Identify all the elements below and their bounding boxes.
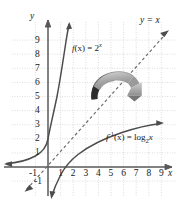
y-axis-arrowhead: [45, 20, 50, 27]
exponential-fn-exponent: x: [99, 41, 102, 48]
exponential-function-label: f(x) = 2x: [72, 42, 102, 53]
x-tick-9: 9: [159, 169, 164, 179]
x-tick-5: 5: [109, 169, 114, 179]
y-tick-9: 9: [35, 36, 40, 46]
y-tick-4: 4: [35, 106, 40, 116]
exponential-fn-arg: (x): [75, 43, 86, 53]
x-tick-4: 4: [96, 169, 101, 179]
inverse-fn-equals: = log: [124, 132, 145, 142]
inverse-fn-argument: x: [149, 132, 153, 142]
identity-line-arrowhead-upper: [160, 30, 169, 37]
y-tick-1: 1: [35, 148, 40, 158]
identity-line-label: y = x: [140, 16, 160, 26]
exponential-curve-arrowhead-left: [4, 161, 12, 167]
x-tick-1: 1: [58, 169, 63, 179]
exponential-fn-equals: = 2: [85, 43, 99, 53]
y-tick-2: 2: [35, 134, 40, 144]
x-tick-8: 8: [146, 169, 151, 179]
identity-line-arrowhead-lower: [25, 185, 34, 192]
graph-canvas: [0, 0, 183, 204]
x-tick-7: 7: [134, 169, 139, 179]
y-tick-3: 3: [35, 120, 40, 130]
y-tick-8: 8: [35, 50, 40, 60]
math-figure: y x 9 8 7 6 5 4 3 2 1 -1 -1 1 2 3 4 5 6 …: [0, 0, 183, 204]
exponential-curve-arrowhead-top: [66, 22, 72, 30]
x-axis-label: x: [168, 169, 172, 179]
x-tick-3: 3: [83, 169, 88, 179]
logarithmic-curve-arrowhead-bottom: [50, 191, 56, 199]
y-tick-5: 5: [35, 92, 40, 102]
y-tick-7: 7: [35, 64, 40, 74]
inverse-function-label: f-1(x) = log2x: [106, 131, 153, 144]
reflection-ribbon-arrow: [91, 72, 142, 102]
y-axis-label: y: [30, 12, 34, 22]
x-tick-6: 6: [121, 169, 126, 179]
inverse-fn-arg: (x): [114, 132, 125, 142]
x-tick-neg1: -1: [29, 169, 37, 179]
x-tick-2: 2: [71, 169, 76, 179]
logarithmic-curve-arrowhead-right: [156, 120, 164, 126]
y-tick-6: 6: [35, 78, 40, 88]
